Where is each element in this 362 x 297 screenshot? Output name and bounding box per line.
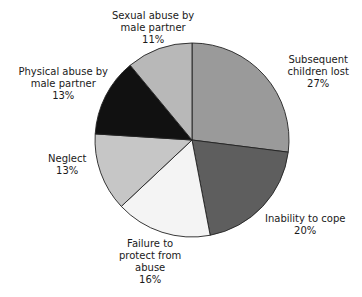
slice-percent: 20%: [265, 225, 345, 237]
slice-percent: 27%: [288, 78, 349, 90]
slice-label-physical-abuse-by-male-partner: Physical abuse bymale partner13%: [19, 66, 108, 102]
slice-percent: 13%: [48, 165, 86, 177]
slice-label-neglect: Neglect13%: [48, 153, 86, 177]
slice-label-line: Neglect: [48, 153, 86, 165]
slice-label-sexual-abuse-by-male-partner: Sexual abuse bymale partner11%: [112, 10, 194, 46]
pie-slice-subsequent-children-lost: [192, 43, 289, 152]
slice-label-line: Subsequent: [288, 54, 349, 66]
slice-label-line: male partner: [19, 78, 108, 90]
slice-label-line: Inability to cope: [265, 213, 345, 225]
slice-label-subsequent-children-lost: Subsequentchildren lost27%: [288, 54, 349, 90]
slice-percent: 11%: [112, 34, 194, 46]
slice-label-failure-to-protect-from-abuse: Failure toprotect fromabuse16%: [119, 238, 181, 286]
slice-percent: 16%: [119, 274, 181, 286]
slice-label-line: children lost: [288, 66, 349, 78]
slice-label-line: abuse: [119, 262, 181, 274]
slice-label-line: protect from: [119, 250, 181, 262]
slice-label-line: Physical abuse by: [19, 66, 108, 78]
slice-percent: 13%: [19, 90, 108, 102]
slice-label-line: Sexual abuse by: [112, 10, 194, 22]
slice-label-inability-to-cope: Inability to cope20%: [265, 213, 345, 237]
slice-label-line: Failure to: [119, 238, 181, 250]
slice-label-line: male partner: [112, 22, 194, 34]
